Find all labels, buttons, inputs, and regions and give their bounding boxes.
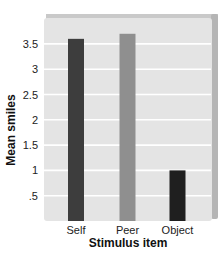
x-axis-categories: SelfPeerObject — [67, 224, 194, 236]
bar-chart: .511.522.533.5 SelfPeerObject Stimulus i… — [0, 0, 224, 261]
x-category-label: Object — [162, 224, 194, 236]
y-tick-label: 2.5 — [23, 89, 38, 101]
y-axis-title: Mean smiles — [4, 94, 18, 166]
bar-object — [170, 170, 186, 221]
bar-peer — [120, 34, 136, 221]
y-tick-label: 1 — [32, 164, 38, 176]
y-axis-ticks: .511.522.533.5 — [23, 38, 38, 202]
bar-self — [68, 39, 84, 221]
x-category-label: Self — [67, 224, 87, 236]
y-tick-label: 3.5 — [23, 38, 38, 50]
x-axis-title: Stimulus item — [89, 236, 168, 250]
y-tick-label: 2 — [32, 114, 38, 126]
y-tick-label: 1.5 — [23, 139, 38, 151]
x-category-label: Peer — [116, 224, 140, 236]
panel-shadow-right — [211, 14, 218, 219]
y-tick-label: .5 — [29, 190, 38, 202]
y-tick-label: 3 — [32, 63, 38, 75]
